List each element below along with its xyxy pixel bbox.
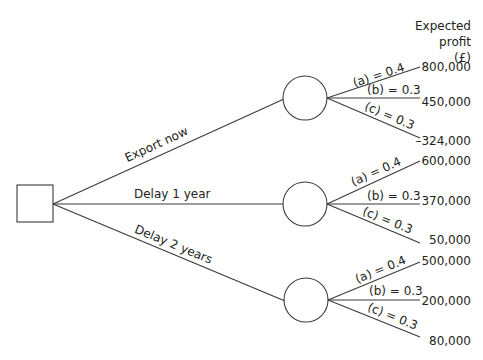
outcome-value: 450,000 (391, 96, 471, 108)
chance-node-delay-2-years (284, 278, 328, 322)
outcome-value: 80,000 (391, 335, 471, 347)
chance-node-export-now (283, 76, 327, 120)
outcome-value: 500,000 (391, 255, 471, 267)
outcome-value: 50,000 (391, 234, 471, 246)
outcome-value: 600,000 (391, 155, 471, 167)
outcome-value: –324,000 (391, 135, 471, 147)
chance-node-delay-1-year (283, 182, 327, 226)
outcome-value: 370,000 (391, 195, 471, 207)
header-line-1: Expected profit (380, 18, 471, 50)
decision-node-square (17, 185, 53, 222)
outcome-value: 200,000 (391, 295, 471, 307)
option-label-delay-1-year: Delay 1 year (134, 188, 210, 200)
prob-label-b: (b) = 0.3 (367, 84, 421, 96)
outcome-value: 800,000 (391, 61, 471, 73)
branch-delay-2-years (53, 204, 285, 301)
